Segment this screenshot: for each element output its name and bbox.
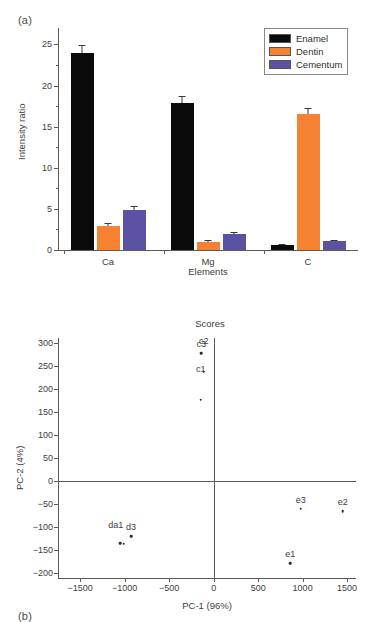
legend-swatch-icon-dentin [269, 47, 291, 56]
scatter-x-tick [214, 578, 215, 582]
scatter-plot-area: −200−150−100−50050100150200250300 −1500−… [58, 338, 356, 578]
error-bar [323, 240, 346, 241]
scatter-x-axis-line [58, 578, 356, 579]
scatter-y-tick [54, 481, 58, 482]
scatter-y-tick-label: 150 [38, 407, 53, 417]
error-bar [97, 223, 120, 225]
panel-a-label: (a) [18, 14, 32, 26]
scatter-point-e3 [300, 507, 303, 510]
scatter-x-tick-label: 1000 [293, 583, 313, 593]
error-bar [171, 96, 194, 103]
error-bar-cap [305, 108, 312, 109]
bar-x-tick [64, 250, 65, 254]
bar-x-axis-line [58, 250, 358, 251]
bar-y-axis-title: Intensity ratio [16, 104, 27, 161]
error-bar [71, 45, 94, 52]
scatter-y-tick-label: −200 [33, 568, 53, 578]
bar-dentin-mg [197, 242, 220, 250]
error-bar [297, 108, 320, 115]
scatter-point-c1 [199, 399, 202, 402]
bar-y-tick [54, 250, 58, 251]
scatter-y-tick [54, 527, 58, 528]
bar-y-tick [54, 168, 58, 169]
scatter-x-tick [258, 578, 259, 582]
legend-item-cementum: Cementum [269, 58, 342, 71]
legend-swatch-icon-cementum [269, 60, 291, 69]
scatter-x-tick-label: 0 [211, 583, 216, 593]
scatter-point-label-c2: c2 [199, 336, 209, 346]
bar-cementum-c [323, 241, 346, 250]
scatter-x-tick [169, 578, 170, 582]
error-bar-cap [105, 223, 112, 224]
bar-y-tick [54, 44, 58, 45]
error-bar-cap [279, 244, 286, 245]
scatter-x-tick-label: −1000 [112, 583, 137, 593]
scatter-y-tick-label: 50 [43, 453, 53, 463]
scatter-x-tick-label: −500 [159, 583, 179, 593]
bar-enamel-ca [71, 53, 94, 250]
bar-cementum-mg [223, 234, 246, 250]
scatter-y-tick-label: 0 [48, 476, 53, 486]
scatter-point-da1 [123, 543, 126, 546]
bar-y-tick [54, 86, 58, 87]
bar-dentin-ca [97, 226, 120, 250]
legend-label-dentin: Dentin [296, 46, 323, 57]
bar-chart-legend: Enamel Dentin Cementum [264, 28, 348, 75]
scatter-y-tick-label: −50 [38, 499, 53, 509]
scatter-y-tick-label: 250 [38, 361, 53, 371]
scatter-y-tick [54, 343, 58, 344]
legend-item-enamel: Enamel [269, 32, 342, 45]
scatter-point-label-e2: e2 [338, 497, 348, 507]
error-bar-cap [79, 45, 86, 46]
scatter-x-tick [347, 578, 348, 582]
scatter-plot-title: Scores [195, 318, 225, 329]
scatter-point-d3 [130, 535, 133, 538]
scatter-y-axis-title: PC-2 (4%) [14, 446, 25, 490]
legend-label-cementum: Cementum [296, 59, 342, 70]
bar-x-tick [164, 250, 165, 254]
bar-dentin-c [297, 114, 320, 250]
bar-x-tick [264, 250, 265, 254]
scatter-x-tick [125, 578, 126, 582]
scatter-chart-panel: (b) Scores −200−150−100−5005010015020025… [0, 300, 392, 621]
scatter-point [119, 542, 122, 545]
scatter-x-axis-title: PC-1 (96%) [182, 600, 232, 611]
scatter-y-tick [54, 573, 58, 574]
scatter-y-axis-line [58, 338, 59, 578]
scatter-y-tick-label: −150 [33, 545, 53, 555]
bar-cementum-ca [123, 210, 146, 250]
scatter-point-label-e1: e1 [285, 549, 295, 559]
error-bar-cap [179, 96, 186, 97]
bar-y-tick [54, 209, 58, 210]
scatter-point-label-d3: d3 [126, 522, 136, 532]
scatter-y-tick-label: −100 [33, 522, 53, 532]
bar-y-tick-minor [56, 188, 59, 189]
bar-y-tick-label: 10 [42, 163, 52, 173]
scatter-y-tick-label: 100 [38, 430, 53, 440]
scatter-x-tick-label: 500 [251, 583, 266, 593]
bar-y-tick-minor [56, 65, 59, 66]
scatter-y-tick [54, 504, 58, 505]
bar-y-tick-label: 0 [47, 245, 52, 255]
bar-y-axis-line [58, 28, 59, 250]
error-bar [223, 232, 246, 234]
bar-y-tick-label: 20 [42, 81, 52, 91]
bar-x-tick-label: C [305, 256, 312, 267]
scatter-y-tick [54, 366, 58, 367]
error-bar-stem [82, 45, 83, 52]
error-bar [197, 240, 220, 242]
scatter-y-tick-label: 200 [38, 384, 53, 394]
bar-y-tick-label: 5 [47, 204, 52, 214]
scatter-y-tick [54, 389, 58, 390]
bar-y-tick-label: 25 [42, 39, 52, 49]
scatter-point-e2 [341, 510, 344, 513]
bar-y-tick-minor [56, 229, 59, 230]
scatter-point-label-da1: da1 [108, 520, 123, 530]
scatter-point-label-e3: e3 [296, 495, 306, 505]
error-bar-cap [331, 240, 338, 241]
scatter-x-tick-label: −1500 [68, 583, 93, 593]
bar-y-tick-minor [56, 106, 59, 107]
error-bar [123, 206, 146, 210]
scatter-x-tick [80, 578, 81, 582]
scatter-y-tick [54, 412, 58, 413]
